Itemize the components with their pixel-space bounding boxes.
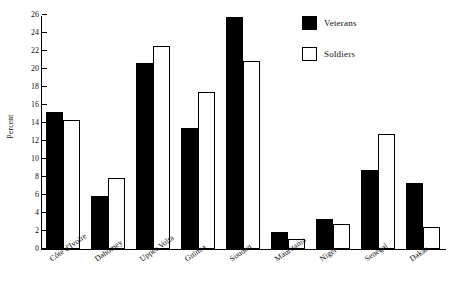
- y-axis-tick-label: 0: [35, 244, 39, 254]
- legend-label-soldiers: Soldiers: [324, 49, 355, 59]
- bar-veterans: [91, 196, 108, 249]
- bar-group: [222, 16, 267, 249]
- bar-veterans: [181, 128, 198, 249]
- bar-veterans: [316, 219, 333, 249]
- y-axis-tick-label: 14: [31, 118, 39, 128]
- y-axis-tick-label: 6: [35, 190, 39, 200]
- bar-soldiers: [198, 92, 215, 250]
- y-axis-tick-label: 18: [31, 82, 39, 92]
- y-axis-tick-label: 26: [31, 10, 39, 20]
- bar-group: [87, 16, 132, 249]
- bar-group: [177, 16, 222, 249]
- bar-veterans: [406, 183, 423, 249]
- legend-label-veterans: Veterans: [324, 18, 357, 28]
- bar-group: [132, 16, 177, 249]
- bar-veterans: [361, 170, 378, 249]
- y-axis-tick-label: 12: [31, 136, 39, 146]
- bar-veterans: [46, 112, 63, 249]
- y-axis-tick: 26: [42, 14, 47, 15]
- legend-item-soldiers: Soldiers: [302, 45, 442, 62]
- y-axis-tick-label: 22: [31, 46, 39, 56]
- y-axis-title: Percent: [6, 97, 15, 157]
- y-axis-tick-label: 16: [31, 100, 39, 110]
- y-axis-tick-label: 24: [31, 28, 39, 38]
- y-axis-tick-label: 10: [31, 154, 39, 164]
- legend: Veterans Soldiers: [302, 14, 442, 76]
- y-axis-tick-label: 4: [35, 208, 39, 218]
- legend-swatch-veterans-icon: [302, 16, 317, 30]
- y-axis-tick-label: 8: [35, 172, 39, 182]
- legend-item-veterans: Veterans: [302, 14, 442, 31]
- y-axis-tick-label: 2: [35, 226, 39, 236]
- bar-chart: Percent 02468101214161820222426 Côte d'I…: [0, 0, 456, 302]
- bar-veterans: [226, 17, 243, 249]
- bar-group: [42, 16, 87, 249]
- y-axis-tick-label: 20: [31, 64, 39, 74]
- bar-soldiers: [63, 120, 80, 249]
- bar-soldiers: [153, 46, 170, 249]
- legend-swatch-soldiers-icon: [302, 47, 317, 61]
- bar-soldiers: [378, 134, 395, 249]
- bar-veterans: [136, 63, 153, 249]
- bar-soldiers: [243, 61, 260, 249]
- bar-soldiers: [333, 224, 350, 249]
